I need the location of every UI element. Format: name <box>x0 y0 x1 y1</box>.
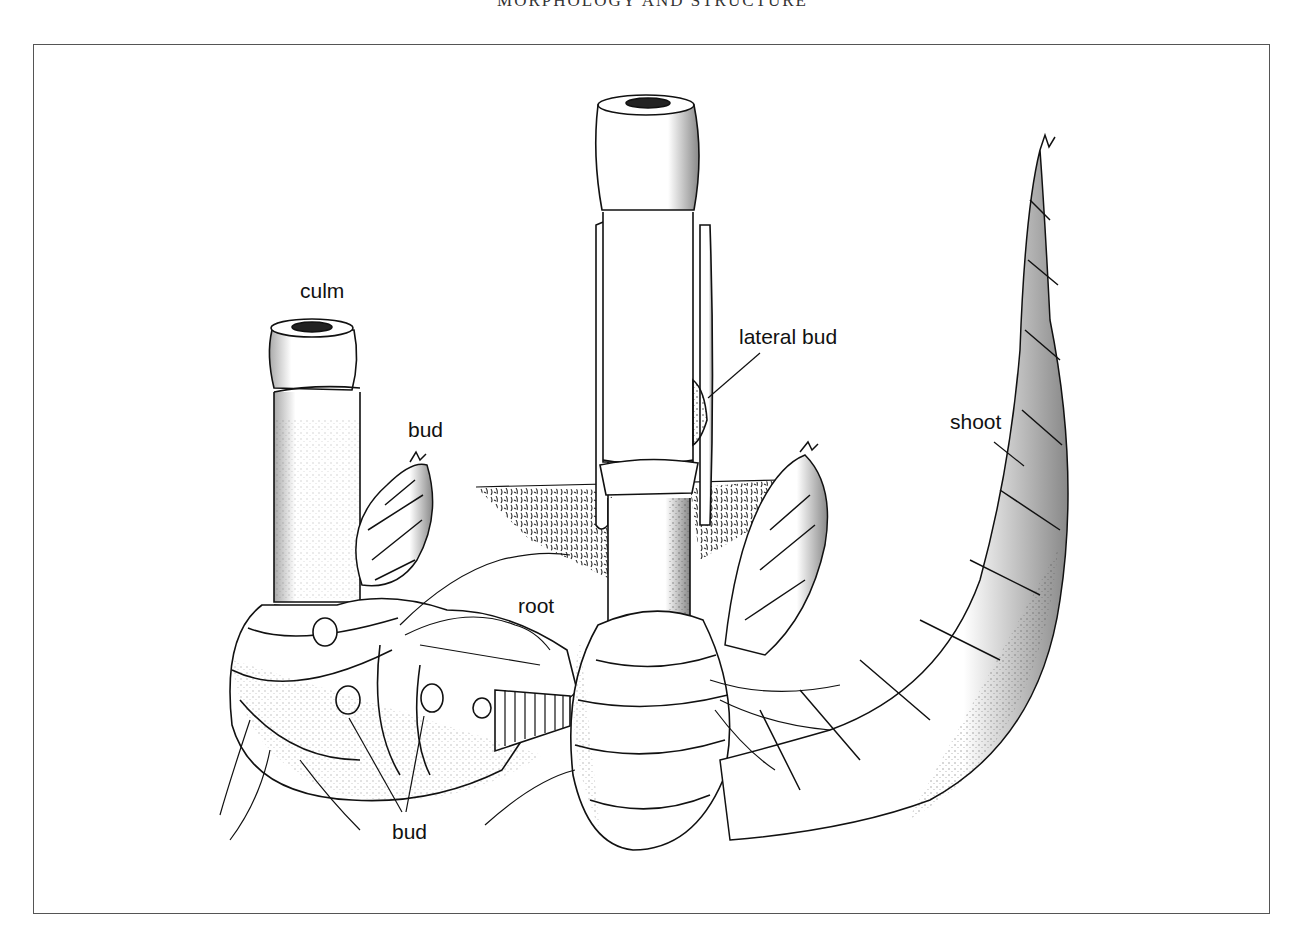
bamboo-illustration <box>0 0 1305 952</box>
centre-rhizome <box>571 611 730 850</box>
label-bud-upper: bud <box>408 418 443 442</box>
label-lateral-bud: lateral bud <box>739 325 837 349</box>
label-bud-lower: bud <box>392 820 427 844</box>
right-bud <box>725 442 828 655</box>
centre-culm <box>596 95 713 628</box>
label-shoot: shoot <box>950 410 1001 434</box>
left-culm <box>269 319 360 608</box>
label-culm: culm <box>300 279 344 303</box>
upper-bud <box>356 452 433 586</box>
label-root: root <box>518 594 554 618</box>
